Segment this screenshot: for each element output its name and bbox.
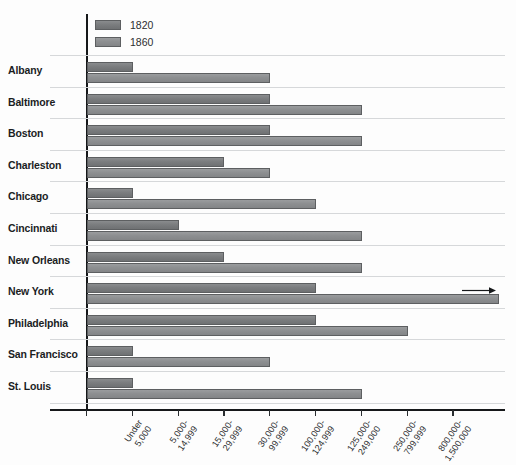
x-axis-tick bbox=[223, 410, 224, 416]
chart-legend: 1820 1860 bbox=[95, 18, 205, 52]
bar-1860-st-louis[interactable] bbox=[87, 389, 362, 399]
bar-1860-cincinnati[interactable] bbox=[87, 231, 362, 241]
category-label-san-francisco: San Francisco bbox=[8, 348, 82, 360]
bar-1820-charleston[interactable] bbox=[87, 157, 224, 167]
legend-swatch-1860 bbox=[95, 37, 121, 47]
chart-row: Boston bbox=[0, 120, 516, 151]
category-label-albany: Albany bbox=[8, 64, 82, 76]
category-label-cincinnati: Cincinnati bbox=[8, 222, 82, 234]
bar-1860-new-orleans[interactable] bbox=[87, 263, 362, 273]
chart-row: St. Louis bbox=[0, 373, 516, 404]
bar-1860-charleston[interactable] bbox=[87, 168, 270, 178]
chart-row: Baltimore bbox=[0, 89, 516, 120]
bar-1820-albany[interactable] bbox=[87, 62, 133, 72]
x-axis-tick-label: Under5,000 bbox=[88, 418, 154, 465]
bar-1820-baltimore[interactable] bbox=[87, 94, 270, 104]
bar-1820-philadelphia[interactable] bbox=[87, 315, 316, 325]
legend-label-1860: 1860 bbox=[130, 36, 153, 48]
bar-1820-new-york[interactable] bbox=[87, 283, 316, 293]
chart-row: Cincinnati bbox=[0, 215, 516, 246]
bar-1860-boston[interactable] bbox=[87, 136, 362, 146]
chart-row: New York bbox=[0, 278, 516, 309]
row-separator bbox=[50, 55, 505, 56]
x-axis-tick bbox=[315, 410, 316, 416]
bar-1860-new-york[interactable] bbox=[87, 294, 499, 304]
bar-1820-san-francisco[interactable] bbox=[87, 346, 133, 356]
bar-1820-cincinnati[interactable] bbox=[87, 220, 179, 230]
bar-1820-boston[interactable] bbox=[87, 125, 270, 135]
x-axis-tick bbox=[452, 410, 453, 416]
bar-1860-san-francisco[interactable] bbox=[87, 357, 270, 367]
chart-row: Philadelphia bbox=[0, 310, 516, 341]
legend-item-1820[interactable]: 1820 bbox=[95, 18, 205, 31]
category-label-chicago: Chicago bbox=[8, 190, 82, 202]
legend-item-1860[interactable]: 1860 bbox=[95, 35, 205, 48]
bar-1860-baltimore[interactable] bbox=[87, 105, 362, 115]
category-label-baltimore: Baltimore bbox=[8, 96, 82, 108]
x-axis-tick bbox=[361, 410, 362, 416]
bar-1820-st-louis[interactable] bbox=[87, 378, 133, 388]
right-arrow-icon bbox=[462, 286, 496, 295]
x-axis-tick bbox=[178, 410, 179, 416]
chart-row: San Francisco bbox=[0, 341, 516, 372]
x-axis-tick bbox=[132, 410, 133, 416]
x-axis-tick bbox=[269, 410, 270, 416]
category-label-st-louis: St. Louis bbox=[8, 380, 82, 392]
x-axis-line bbox=[50, 409, 505, 411]
category-label-charleston: Charleston bbox=[8, 159, 82, 171]
x-axis-tick bbox=[86, 410, 87, 416]
bar-1820-chicago[interactable] bbox=[87, 188, 133, 198]
legend-swatch-1820 bbox=[95, 20, 121, 30]
category-label-new-orleans: New Orleans bbox=[8, 254, 82, 266]
chart-row: Albany bbox=[0, 57, 516, 88]
chart-row: Charleston bbox=[0, 152, 516, 183]
x-axis-tick bbox=[407, 410, 408, 416]
legend-label-1820: 1820 bbox=[130, 19, 153, 31]
chart-row: Chicago bbox=[0, 183, 516, 214]
category-label-philadelphia: Philadelphia bbox=[8, 317, 82, 329]
category-label-new-york: New York bbox=[8, 285, 82, 297]
population-bar-chart: 1820 1860 AlbanyBaltimoreBostonCharlesto… bbox=[0, 0, 516, 465]
bar-1820-new-orleans[interactable] bbox=[87, 252, 224, 262]
chart-row: New Orleans bbox=[0, 247, 516, 278]
bar-1860-chicago[interactable] bbox=[87, 199, 316, 209]
category-label-boston: Boston bbox=[8, 127, 82, 139]
bar-1860-albany[interactable] bbox=[87, 73, 270, 83]
bar-1860-philadelphia[interactable] bbox=[87, 326, 408, 336]
